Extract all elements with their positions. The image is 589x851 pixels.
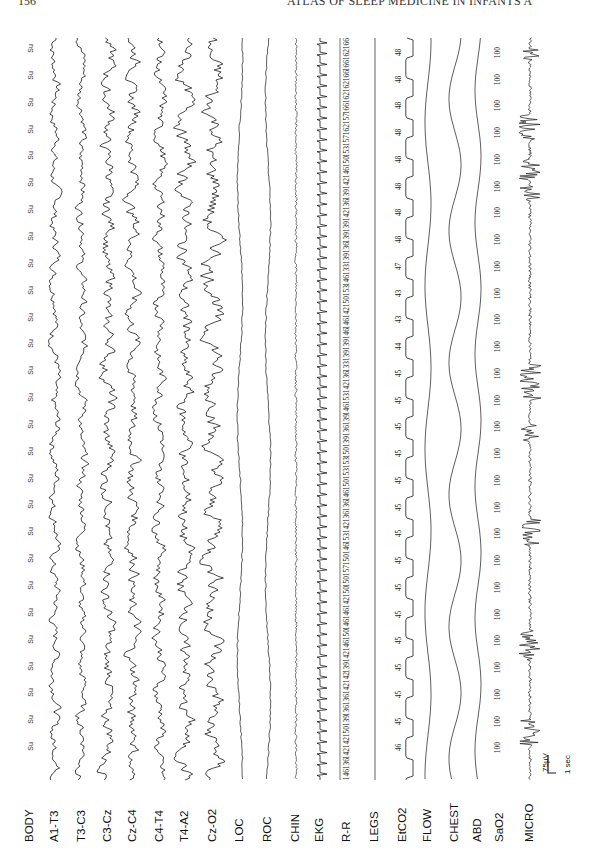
rr-value: 136 [342,694,351,705]
rr-value: 153 [342,457,351,468]
eeg-trace-a1-t3 [48,38,62,780]
channel-label-micro: MICRO [523,804,535,842]
etco2-value: 45 [394,557,403,565]
etco2-value: 45 [394,450,403,458]
sao2-value: 100 [493,501,502,512]
etco2-value: 48 [394,182,403,190]
rr-value: 136 [342,425,351,436]
rr-value: 136 [342,199,351,210]
rr-value: 142 [342,651,351,662]
channel-label-sao2: SaO2 [493,813,505,842]
body-position-label: Su [27,662,34,671]
channel-label-chest: CHEST [448,803,460,842]
rr-value: 162 [342,92,351,103]
sao2-value: 100 [493,100,502,111]
sao2-value: 100 [493,127,502,138]
etco2-value: 48 [394,102,403,110]
channel-label-cz-c4: Cz-C4 [126,809,138,842]
body-position-label: Su [27,581,34,590]
rr-value: 139 [342,436,351,447]
rr-value: 146 [342,608,351,619]
etco2-trace [406,38,413,780]
body-position-label: Su [27,528,34,537]
channel-label-c3-cz: C3-Cz [101,809,113,842]
channel-label-cz-o2: Cz-O2 [206,809,218,842]
etco2-value: 45 [394,691,403,699]
rr-value: 142 [342,522,351,533]
eeg-trace-t3-c3 [75,38,89,780]
rr-value: 162 [342,81,351,92]
scale-amplitude-label: 75µV [541,753,550,772]
rr-value: 142 [342,178,351,189]
micro-trace [519,38,541,780]
rr-value: 150 [342,726,351,737]
channel-label-c4-t4: C4-T4 [153,810,165,842]
body-position-label: Su [27,98,34,107]
sao2-value: 100 [493,181,502,192]
etco2-value: 45 [394,530,403,538]
rr-value: 146 [342,543,351,554]
rr-value: 139 [342,253,351,264]
etco2-value: 45 [394,396,403,404]
rr-value: 139 [342,414,351,425]
body-position-label: Su [27,44,34,53]
etco2-value: 45 [394,477,403,485]
sao2-value: 100 [493,582,502,593]
rr-value: 142 [342,307,351,318]
etco2-value: 47 [394,263,403,271]
rr-value: 153 [342,285,351,296]
sao2-value: 100 [493,341,502,352]
rr-value: 142 [342,597,351,608]
body-position-label: Su [27,286,34,295]
body-position-label: Su [27,340,34,349]
body-position-label: Su [27,259,34,268]
body-position-label: Su [27,447,34,456]
eeg-trace-cz-c4 [122,38,141,780]
body-position-label: Su [27,125,34,134]
body-position-label: Su [27,742,34,751]
sao2-value: 100 [493,314,502,325]
rr-value: 166 [342,38,351,49]
eeg-trace-cz-o2 [200,38,227,780]
etco2-value: 44 [394,343,403,351]
sao2-value: 100 [493,555,502,566]
channel-label-ekg: EKG [313,818,325,842]
etco2-value: 45 [394,584,403,592]
rr-value: 146 [342,167,351,178]
flow-trace [425,38,431,779]
rr-value: 139 [342,221,351,232]
body-position-label: Su [27,689,34,698]
channel-label-body: BODY [23,809,35,842]
sao2-value: 100 [493,742,502,753]
rr-value: 136 [342,371,351,382]
rr-value: 150 [342,554,351,565]
sao2-value: 100 [493,154,502,165]
sao2-value: 100 [493,715,502,726]
eeg-trace-t4-a2 [173,38,196,780]
abd-trace [475,38,481,779]
etco2-value: 43 [394,289,403,297]
body-position-label: Su [27,716,34,725]
etco2-value: 45 [394,423,403,431]
sao2-value: 100 [493,234,502,245]
eeg-trace-c3-cz [97,38,117,780]
eeg-trace-c4-t4 [152,38,168,780]
body-position-label: Su [27,608,34,617]
etco2-value: 45 [394,664,403,672]
rr-value: 139 [342,339,351,350]
etco2-value: 48 [394,75,403,83]
rr-value: 150 [342,586,351,597]
eog-trace-loc [237,38,243,779]
chest-trace [449,38,461,779]
etco2-value: 45 [394,717,403,725]
rr-value: 136 [342,242,351,253]
channel-label-legs: LEGS [368,811,380,842]
sao2-value: 100 [493,662,502,673]
body-position-label: Su [27,474,34,483]
sao2-value: 100 [493,207,502,218]
rr-value: 146 [342,640,351,651]
sao2-value: 100 [493,368,502,379]
rr-value: 136 [342,511,351,522]
rr-value: 150 [342,156,351,167]
etco2-value: 43 [394,316,403,324]
